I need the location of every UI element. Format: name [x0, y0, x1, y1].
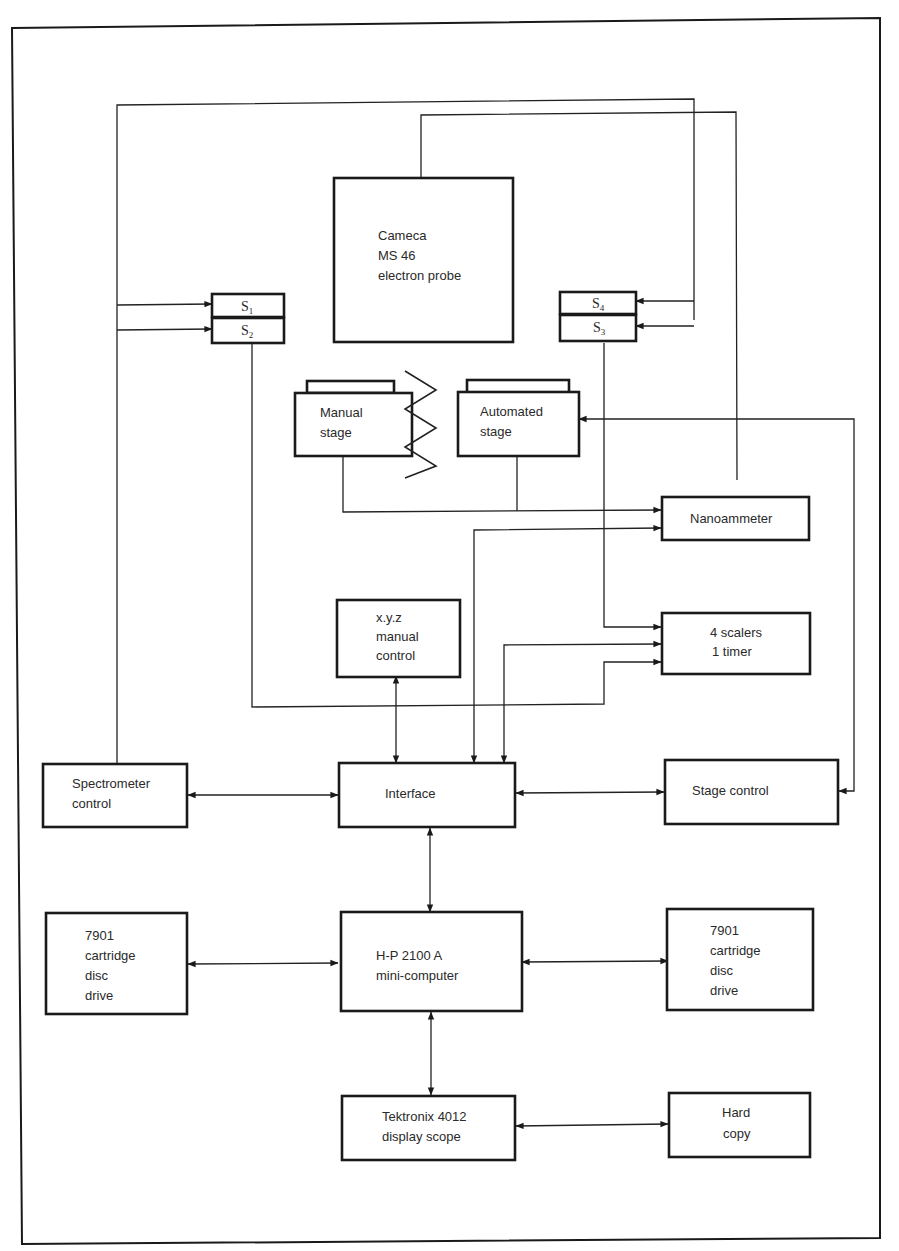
svg-text:display scope: display scope: [382, 1129, 461, 1144]
svg-text:Stage control: Stage control: [692, 783, 769, 798]
svg-text:drive: drive: [710, 983, 738, 998]
svg-text:Nanoammeter: Nanoammeter: [690, 511, 773, 526]
svg-text:Tektronix 4012: Tektronix 4012: [382, 1109, 467, 1124]
node-stage-control: Stage control: [665, 760, 838, 824]
svg-text:7901: 7901: [710, 923, 739, 938]
svg-text:Hard: Hard: [722, 1105, 750, 1120]
svg-text:H-P 2100 A: H-P 2100 A: [376, 948, 443, 963]
svg-text:Interface: Interface: [385, 786, 436, 801]
svg-text:control: control: [72, 796, 111, 811]
svg-text:stage: stage: [480, 424, 512, 439]
svg-text:disc: disc: [710, 963, 734, 978]
probe-line-1: Cameca: [378, 228, 427, 243]
svg-text:7901: 7901: [85, 928, 114, 943]
node-electron-probe: Cameca MS 46 electron probe: [334, 178, 513, 342]
block-diagram: Cameca MS 46 electron probe S1 S2 S4 S3 …: [0, 0, 899, 1251]
node-disc-drive-right: 7901 cartridge disc drive: [667, 909, 813, 1010]
node-spectrometer-s3: S3: [560, 315, 636, 341]
node-hard-copy: Hard copy: [669, 1093, 810, 1157]
node-nanoammeter: Nanoammeter: [662, 497, 809, 540]
node-spectrometer-s2: S2: [212, 318, 284, 343]
node-spectrometer-s1: S1: [212, 294, 284, 317]
svg-text:1 timer: 1 timer: [712, 644, 752, 659]
svg-text:drive: drive: [85, 988, 113, 1003]
node-scalers-timer: 4 scalers 1 timer: [662, 613, 810, 674]
node-automated-stage: Automated stage: [458, 380, 579, 456]
node-spectrometer-control: Spectrometer control: [43, 764, 187, 827]
svg-text:mini-computer: mini-computer: [376, 968, 459, 983]
svg-text:Spectrometer: Spectrometer: [72, 776, 151, 791]
svg-text:stage: stage: [320, 425, 352, 440]
node-interface: Interface: [339, 763, 515, 827]
svg-text:Manual: Manual: [320, 405, 363, 420]
node-xyz-manual-control: x.y.z manual control: [337, 600, 460, 677]
svg-text:cartridge: cartridge: [710, 943, 761, 958]
svg-text:disc: disc: [85, 968, 109, 983]
node-tektronix-display: Tektronix 4012 display scope: [342, 1096, 515, 1160]
node-minicomputer: H-P 2100 A mini-computer: [341, 912, 522, 1011]
node-spectrometer-s4: S4: [560, 292, 636, 314]
svg-text:Automated: Automated: [480, 404, 543, 419]
svg-text:cartridge: cartridge: [85, 948, 136, 963]
node-disc-drive-left: 7901 cartridge disc drive: [46, 913, 187, 1014]
svg-text:manual: manual: [376, 629, 419, 644]
svg-text:x.y.z: x.y.z: [376, 610, 402, 625]
svg-text:4 scalers: 4 scalers: [710, 625, 763, 640]
svg-text:copy: copy: [723, 1126, 751, 1141]
probe-line-2: MS 46: [378, 248, 416, 263]
node-manual-stage: Manual stage: [295, 381, 412, 456]
probe-line-3: electron probe: [378, 268, 461, 283]
svg-text:control: control: [376, 648, 415, 663]
